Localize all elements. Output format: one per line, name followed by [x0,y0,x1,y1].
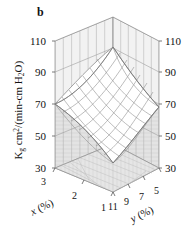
z-axis-title-rest: cm [12,132,24,148]
y-tick-9: 9 [124,197,129,207]
x-tick-3: 3 [41,177,46,187]
z-tick-left-110: 110 [22,36,46,47]
panel-label: b [37,6,44,18]
z-tick-right-30: 30 [165,163,189,174]
z-tick-left-30: 30 [22,163,46,174]
y-tick-11: 11 [108,202,118,212]
surface-plot-figure: b 110 90 70 50 30 110 90 70 50 30 3 2 1 … [0,0,194,233]
z-tick-right-50: 50 [165,131,189,142]
x-tick-2: 2 [72,191,77,201]
y-tick-5: 5 [154,186,159,196]
z-axis-title-sup: 2 [12,128,21,132]
z-tick-right-90: 90 [165,67,189,78]
z-axis-title: Kg cm2/(min-cm H2O) [13,47,26,173]
z-tick-right-110: 110 [165,36,189,47]
y-tick-7: 7 [139,192,144,202]
x-tick-1: 1 [101,203,106,213]
z-tick-right-70: 70 [165,99,189,110]
z-axis-title-sub2: 2 [17,73,26,77]
z-tick-left-50: 50 [22,131,46,142]
z-tick-left-70: 70 [22,99,46,110]
z-axis-title-sub: g [17,148,26,152]
z-axis-title-tail: /(min-cm H [12,76,24,128]
z-axis-title-k: K [12,152,24,160]
z-axis-title-end: O) [12,61,24,73]
